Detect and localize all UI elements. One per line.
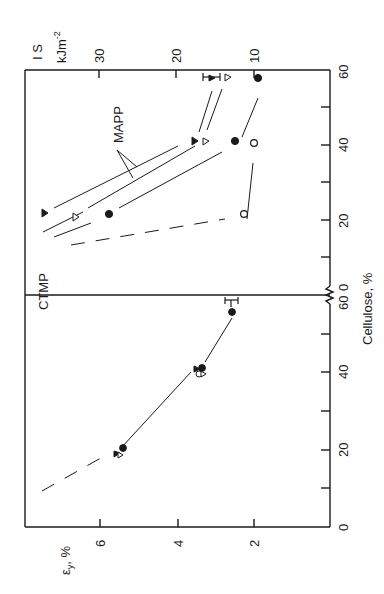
open-circle-marker: [251, 140, 258, 147]
is-tick-10: 10: [247, 49, 262, 63]
open-triangle-marker: [203, 138, 209, 145]
open-triangle-marker: [201, 371, 206, 377]
cellulose-tick-labels: 60 40 20 0 60 40 20 0: [336, 65, 351, 531]
is-axis-units: kJm-2: [52, 31, 69, 63]
ey-tick-2: 2: [247, 540, 262, 547]
ey-axis-title: εy, %: [58, 545, 75, 575]
open-triangle-marker: [225, 74, 231, 81]
cellulose-axis-ticks: [321, 107, 330, 488]
upper-panel-lines: [43, 89, 258, 245]
x-upper-40: 40: [336, 138, 351, 152]
x-upper-0: 0: [336, 284, 351, 291]
x-axis-title: Cellulose, %: [360, 272, 375, 345]
filled-circle-marker: [120, 445, 127, 452]
lower-panel-lines: [42, 318, 232, 491]
x-upper-20: 20: [336, 214, 351, 228]
filled-triangle-marker: [42, 209, 48, 217]
plot-frame: [25, 70, 333, 527]
ey-tick-4: 4: [171, 540, 186, 547]
x-lower-40: 40: [336, 365, 351, 379]
filled-circle-marker: [231, 137, 238, 144]
ey-axis-ticks: [100, 519, 254, 527]
mapp-label: MAPP: [111, 106, 126, 143]
chart-canvas: 30 20 10 I S kJm-2 6 4 2 εy, % 60 40 20 …: [0, 0, 384, 594]
filled-triangle-marker: [209, 75, 215, 81]
x-lower-0: 0: [336, 524, 351, 531]
filled-circle-marker: [254, 74, 261, 81]
lower-error-bar: [225, 297, 238, 307]
ey-tick-6: 6: [93, 540, 108, 547]
open-circle-marker: [241, 211, 248, 218]
x-upper-60: 60: [336, 65, 351, 79]
filled-circle-marker: [105, 210, 112, 217]
filled-circle-marker: [199, 365, 206, 372]
x-lower-20: 20: [336, 443, 351, 457]
is-tick-labels: 30 20 10: [92, 49, 262, 63]
is-tick-20: 20: [169, 49, 184, 63]
is-axis-title: I S: [30, 44, 45, 60]
is-tick-30: 30: [92, 49, 107, 63]
x-lower-60: 60: [336, 296, 351, 310]
ey-tick-labels: 6 4 2: [93, 540, 262, 547]
upper-panel-markers: [42, 74, 262, 221]
filled-triangle-marker: [192, 137, 198, 145]
filled-circle-marker: [229, 309, 236, 316]
ctmp-label: CTMP: [36, 273, 51, 310]
